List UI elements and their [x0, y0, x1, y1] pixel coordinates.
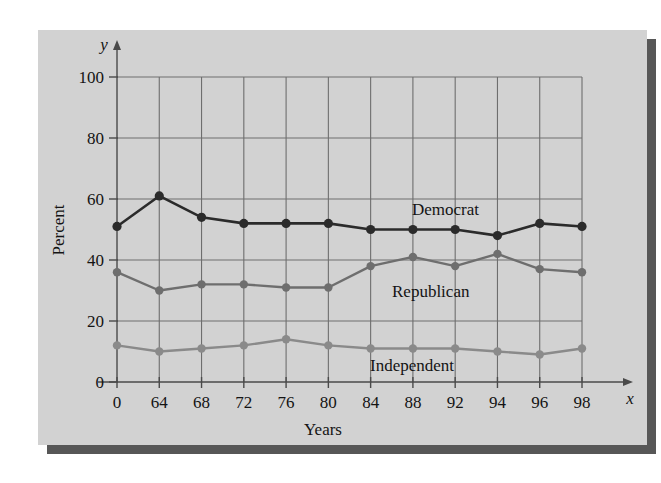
data-point [409, 344, 417, 352]
data-point [536, 350, 544, 358]
y-tick-label: 60 [87, 190, 104, 209]
x-tick-label: 68 [193, 393, 210, 412]
y-tick-labels: 020406080100 [79, 68, 105, 392]
chart-figure: 020406080100 06468727680848892949698 Dem… [0, 0, 661, 483]
data-point [197, 213, 206, 222]
data-point [155, 347, 163, 355]
data-point [155, 191, 164, 200]
x-tick-label: 94 [489, 393, 507, 412]
series-line [117, 254, 582, 291]
y-tick-label: 20 [87, 312, 104, 331]
data-point [578, 344, 586, 352]
x-axis-title: Years [304, 420, 342, 439]
data-point [451, 225, 460, 234]
data-series-group [112, 191, 586, 358]
y-axis-title: Percent [49, 204, 68, 255]
series-annotation: Republican [392, 282, 470, 301]
data-point [113, 341, 121, 349]
data-point [409, 253, 417, 261]
data-point [366, 344, 374, 352]
y-tick-label: 100 [79, 68, 105, 87]
x-tick-label: 92 [447, 393, 464, 412]
series-independent [113, 335, 586, 359]
data-point [197, 344, 205, 352]
data-point [493, 250, 501, 258]
data-point [282, 335, 290, 343]
data-point [577, 222, 586, 231]
data-point [451, 262, 459, 270]
series-republican [113, 250, 586, 295]
data-point [324, 341, 332, 349]
axes [98, 40, 633, 386]
x-axis-arrow-icon [623, 378, 633, 386]
series-annotation: Independent [370, 356, 454, 375]
x-tick-label: 72 [235, 393, 252, 412]
horizontal-gridlines [117, 77, 582, 321]
data-point [282, 283, 290, 291]
x-tick-labels: 06468727680848892949698 [113, 393, 591, 412]
y-tick-label: 40 [87, 251, 104, 270]
data-point [536, 265, 544, 273]
data-point [281, 219, 290, 228]
data-point [112, 222, 121, 231]
data-point [451, 344, 459, 352]
line-chart-plot: 020406080100 06468727680848892949698 Dem… [38, 30, 647, 445]
x-tick-label: 64 [151, 393, 169, 412]
data-point [240, 341, 248, 349]
data-point [197, 280, 205, 288]
y-tick-label: 80 [87, 129, 104, 148]
data-point [324, 283, 332, 291]
data-point [366, 225, 375, 234]
data-point [366, 262, 374, 270]
y-axis-arrow-icon [113, 40, 121, 50]
x-tick-label: 0 [113, 393, 122, 412]
data-point [240, 280, 248, 288]
series-annotation: Democrat [412, 200, 479, 219]
data-point [493, 347, 501, 355]
x-tick-label: 96 [531, 393, 548, 412]
y-axis-symbol: y [98, 35, 108, 54]
data-point [155, 286, 163, 294]
x-tick-label: 80 [320, 393, 337, 412]
data-point [408, 225, 417, 234]
data-point [113, 268, 121, 276]
series-line [117, 339, 582, 354]
data-point [239, 219, 248, 228]
chart-panel: 020406080100 06468727680848892949698 Dem… [38, 30, 647, 445]
y-tick-label: 0 [96, 373, 105, 392]
x-tick-label: 76 [278, 393, 295, 412]
data-point [578, 268, 586, 276]
x-tick-label: 88 [404, 393, 421, 412]
x-tick-label: 84 [362, 393, 380, 412]
series-line [117, 196, 582, 236]
data-point [493, 231, 502, 240]
data-point [535, 219, 544, 228]
x-axis-symbol: x [625, 389, 634, 408]
x-tick-label: 98 [574, 393, 591, 412]
data-point [324, 219, 333, 228]
